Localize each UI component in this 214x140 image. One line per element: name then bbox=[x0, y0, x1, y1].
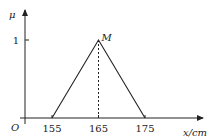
x-axis-label: x/cm bbox=[183, 127, 207, 138]
origin-label: O bbox=[11, 122, 19, 133]
membership-chart: O μ x/cm 1551651751M bbox=[0, 0, 214, 140]
x-tick-label: 175 bbox=[135, 123, 154, 134]
series-line-membership bbox=[52, 40, 145, 118]
y-axis-label: μ bbox=[9, 9, 16, 20]
point-label-M: M bbox=[101, 32, 113, 43]
y-tick-label: 1 bbox=[13, 35, 19, 46]
x-tick-label: 165 bbox=[89, 123, 108, 134]
x-tick-label: 155 bbox=[42, 123, 61, 134]
